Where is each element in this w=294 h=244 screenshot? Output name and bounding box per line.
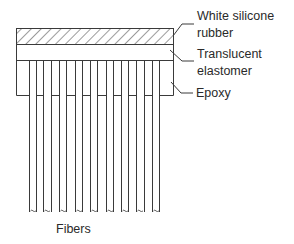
fiber <box>30 61 37 213</box>
fiber <box>107 61 114 213</box>
fiber <box>91 61 98 213</box>
leader-epoxy <box>171 82 193 93</box>
label-rubber-line1: White silicone <box>197 9 274 23</box>
epoxy-layer <box>17 61 174 96</box>
fiber <box>122 61 129 213</box>
label-epoxy: Epoxy <box>196 86 231 100</box>
fiber <box>60 61 67 213</box>
fiber <box>153 61 160 213</box>
fiber-optic-sensor-diagram: White silicone rubber Translucent elasto… <box>0 0 294 244</box>
fiber <box>44 61 52 213</box>
fiber-bundle <box>30 61 160 213</box>
label-elastomer-line1: Translucent <box>197 47 262 61</box>
label-elastomer-line2: elastomer <box>197 64 252 78</box>
elastomer-layer <box>17 45 174 61</box>
fiber <box>137 61 145 213</box>
label-rubber-line2: rubber <box>197 26 233 40</box>
label-fibers: Fibers <box>56 222 91 236</box>
leader-rubber <box>173 24 194 36</box>
fiber <box>76 61 83 213</box>
rubber-layer <box>17 29 174 45</box>
